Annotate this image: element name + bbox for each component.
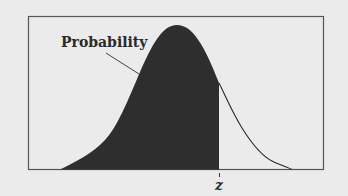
z-axis-label: z <box>214 177 224 193</box>
annotation-leader-line <box>106 53 139 74</box>
probability-annotation: Probability <box>61 34 148 50</box>
density-curve-right-tail <box>219 83 292 170</box>
chart-figure: Probability z <box>0 0 348 196</box>
chart-svg: Probability z <box>0 0 348 196</box>
